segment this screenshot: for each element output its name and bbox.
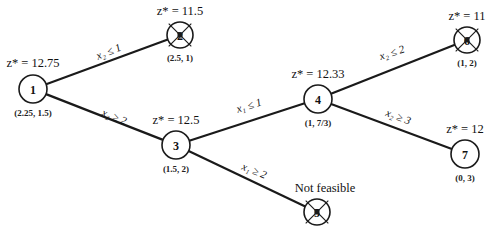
solution-coordinates: (1, 2): [457, 58, 477, 68]
node-number: 1: [30, 83, 36, 97]
node-2: 2z* = 11.5(2.5, 1): [157, 4, 204, 63]
node-6: 6z* = 11(1, 2): [448, 9, 485, 68]
node-number: 7: [462, 148, 468, 162]
objective-value: z* = 11.5: [157, 4, 204, 18]
solution-coordinates: (0, 3): [455, 173, 475, 183]
solution-coordinates: (1.5, 2): [163, 164, 189, 174]
edges-layer: x₂ ≤ 1x₂ ≥ 2x₁ ≤ 1x₁ ≥ 2x₂ ≤ 2x₂ ≥ 3: [46, 39, 455, 206]
node-5: 5Not feasible: [295, 181, 356, 225]
node-3: 3z* = 12.5(1.5, 2): [153, 113, 200, 174]
node-number: 4: [315, 93, 321, 107]
edge-label-1-2: x₂ ≤ 1: [93, 41, 122, 62]
edge-label-1-3: x₂ ≥ 2: [99, 106, 129, 127]
objective-value: z* = 12.75: [6, 56, 59, 70]
nodes-layer: 1z* = 12.75(2.25, 1.5)2z* = 11.5(2.5, 1)…: [6, 4, 485, 225]
branch-and-bound-tree: x₂ ≤ 1x₂ ≥ 2x₁ ≤ 1x₁ ≥ 2x₂ ≤ 2x₂ ≥ 3 1z*…: [0, 0, 494, 237]
node-4: 4z* = 12.33(1, 7/3): [291, 67, 344, 128]
edge-label-3-4: x₁ ≤ 1: [234, 96, 263, 115]
solution-coordinates: (2.25, 1.5): [14, 108, 52, 118]
objective-value: z* = 11: [448, 9, 485, 23]
solution-coordinates: (2.5, 1): [167, 53, 193, 63]
node-1: 1z* = 12.75(2.25, 1.5): [6, 56, 59, 118]
edge-label-4-6: x₂ ≤ 2: [377, 42, 407, 62]
node-7: 7z* = 12(0, 3): [446, 122, 484, 183]
edge-label-4-7: x₂ ≥ 3: [383, 106, 413, 127]
solution-coordinates: (1, 7/3): [305, 118, 332, 128]
objective-value: z* = 12.33: [291, 67, 344, 81]
infeasible-note: Not feasible: [295, 181, 356, 195]
objective-value: z* = 12: [446, 122, 484, 136]
edge-3-5: [189, 151, 306, 206]
node-number: 3: [173, 139, 179, 153]
objective-value: z* = 12.5: [153, 113, 200, 127]
